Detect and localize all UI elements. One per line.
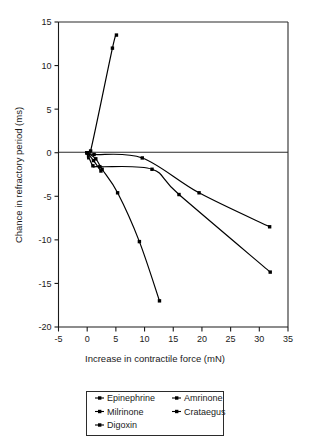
data-point-marker: [115, 33, 118, 36]
chart-figure: 151050-5-10-15-20 -505101520253035 Incre…: [0, 0, 310, 445]
data-point-marker: [111, 46, 114, 49]
legend: EpinephrineAmrinoneMilrinoneCrataegusDig…: [87, 392, 227, 436]
data-point-marker: [85, 151, 88, 154]
legend-item-milrinone[interactable]: Milrinone: [95, 407, 144, 417]
legend-item-amrinone[interactable]: Amrinone: [172, 393, 223, 403]
legend-label: Milrinone: [107, 407, 144, 417]
x-tick-label: 25: [226, 334, 236, 344]
data-point-marker: [268, 225, 271, 228]
x-tick-label: -5: [54, 334, 62, 344]
data-point-marker: [269, 270, 272, 273]
legend-item-digoxin[interactable]: Digoxin: [95, 420, 137, 430]
legend-item-epinephrine[interactable]: Epinephrine: [95, 393, 155, 403]
series-line: [87, 35, 116, 159]
line-chart: 151050-5-10-15-20 -505101520253035 Incre…: [0, 0, 310, 445]
x-tick-label: 30: [254, 334, 264, 344]
legend-item-crataegus[interactable]: Crataegus: [172, 407, 226, 417]
legend-label: Crataegus: [184, 407, 226, 417]
data-point-marker: [197, 191, 200, 194]
series-line: [87, 153, 159, 301]
y-tick-label: -20: [38, 322, 51, 332]
x-tick-label: 20: [197, 334, 207, 344]
y-tick-label: 10: [41, 61, 51, 71]
series-crataegus: [85, 151, 161, 303]
x-tick-label: 5: [113, 334, 118, 344]
data-point-marker: [158, 299, 161, 302]
series-epinephrine: [85, 33, 118, 159]
y-tick-label: 0: [46, 148, 51, 158]
legend-marker-square-icon: [175, 410, 178, 413]
legend-label: Epinephrine: [107, 393, 155, 403]
y-axis-tick-labels: 151050-5-10-15-20: [38, 17, 51, 332]
y-tick-label: -10: [38, 235, 51, 245]
data-point-marker: [92, 159, 95, 162]
x-tick-label: 10: [140, 334, 150, 344]
y-axis-ticks: [55, 22, 59, 327]
legend-marker-square-icon: [175, 396, 178, 399]
y-axis-title: Chance in refractory period (ms): [13, 107, 24, 243]
x-tick-label: 35: [283, 334, 293, 344]
data-point-marker: [116, 191, 119, 194]
y-tick-label: -5: [43, 192, 51, 202]
x-axis-tick-labels: -505101520253035: [54, 334, 293, 344]
series-line: [87, 153, 269, 227]
plot-frame: [59, 22, 289, 327]
series-amrinone: [85, 151, 271, 228]
data-series-group: [85, 33, 271, 302]
series-milrinone: [85, 151, 271, 274]
x-axis-ticks: [59, 327, 289, 332]
y-tick-label: 15: [41, 17, 51, 27]
data-point-marker: [138, 240, 141, 243]
data-point-marker: [99, 169, 102, 172]
legend-marker-square-icon: [98, 410, 101, 413]
y-tick-label: -15: [38, 279, 51, 289]
data-point-marker: [150, 168, 153, 171]
series-line: [87, 153, 270, 272]
x-tick-label: 0: [85, 334, 90, 344]
data-point-marker: [89, 149, 92, 152]
data-point-marker: [177, 193, 180, 196]
legend-label: Digoxin: [107, 420, 137, 430]
legend-label: Amrinone: [184, 393, 223, 403]
x-axis-title: Increase in contractile force (mN): [85, 353, 225, 364]
legend-marker-square-icon: [98, 396, 101, 399]
data-point-marker: [91, 164, 94, 167]
x-tick-label: 15: [168, 334, 178, 344]
y-tick-label: 5: [46, 105, 51, 115]
legend-marker-square-icon: [98, 423, 101, 426]
data-point-marker: [141, 156, 144, 159]
